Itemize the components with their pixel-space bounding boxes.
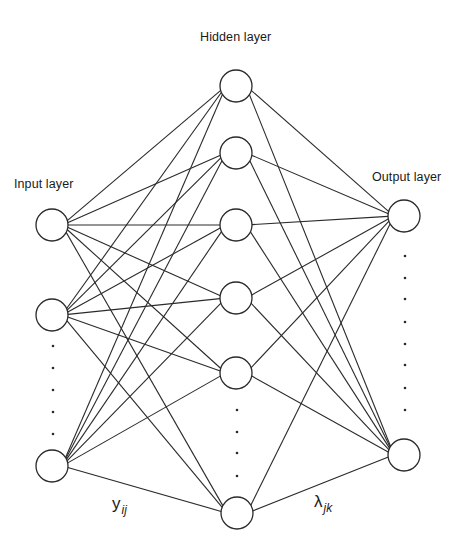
edge-i1-h6 (65, 230, 224, 507)
output-ellipsis-dot (404, 298, 407, 301)
edge-i1-h1 (67, 90, 222, 221)
output-ellipsis-dot (404, 409, 407, 412)
edge-h2-o2 (249, 159, 392, 450)
edge-i2-h4 (68, 299, 220, 315)
weight-symbol: λ (314, 492, 323, 511)
input-node-i2 (36, 299, 68, 331)
hidden-output-weight-label: λjk (314, 492, 332, 512)
output-layer-label: Output layer (372, 170, 441, 184)
edge-h1-o2 (248, 92, 391, 449)
edge-i3-h3 (65, 230, 222, 461)
weight-subscript: ij (122, 503, 127, 517)
edge-h4-o2 (250, 302, 389, 450)
input-node-i3 (36, 450, 68, 482)
input-ellipsis-dot (52, 367, 55, 370)
hidden-node-h3 (220, 209, 252, 241)
edge-i3-h5 (67, 376, 220, 463)
edge-h2-o1 (252, 155, 389, 214)
edge-i1-h4 (68, 227, 221, 295)
input-node-i1 (36, 209, 68, 241)
edge-h3-o1 (252, 216, 388, 224)
output-ellipsis-dot (404, 343, 407, 346)
neuron-nodes (36, 70, 420, 529)
edge-i3-h1 (64, 92, 223, 460)
input-ellipsis-dot (52, 411, 55, 414)
edge-h4-o1 (251, 219, 388, 295)
output-ellipsis-dot (404, 387, 407, 390)
input-ellipsis-dot (52, 345, 55, 348)
neural-network-diagram (0, 0, 461, 560)
hidden-ellipsis-dot (236, 475, 239, 478)
edge-h5-o1 (250, 220, 389, 368)
hidden-node-h5 (220, 357, 252, 389)
hidden-node-h1 (220, 70, 252, 102)
edge-i3-h2 (65, 159, 223, 461)
hidden-ellipsis-dot (236, 452, 239, 455)
weight-symbol: y (112, 494, 121, 513)
hidden-ellipsis-dot (236, 409, 239, 412)
weight-subscript: jk (324, 501, 333, 515)
edge-i3-h6 (68, 468, 221, 512)
input-ellipsis-dot (52, 389, 55, 392)
edge-i2-h2 (66, 157, 221, 311)
output-ellipsis-dot (404, 321, 407, 324)
edge-i1-h2 (68, 155, 221, 222)
input-hidden-weight-label: yij (112, 494, 127, 514)
input-layer-label: Input layer (14, 177, 73, 191)
edge-h3-o2 (249, 230, 390, 450)
edge-i3-h4 (66, 302, 221, 461)
output-ellipsis-dot (404, 255, 407, 258)
hidden-ellipsis-dot (236, 431, 239, 434)
hidden-layer-label: Hidden layer (200, 30, 271, 44)
output-node-o1 (388, 200, 420, 232)
hidden-node-h2 (220, 137, 252, 169)
edge-i2-h5 (68, 317, 221, 371)
output-ellipsis-dot (404, 277, 407, 280)
output-node-o2 (388, 439, 420, 471)
output-ellipsis-dot (404, 364, 407, 367)
hidden-node-h4 (220, 282, 252, 314)
input-ellipsis-dot (52, 433, 55, 436)
hidden-node-h6 (221, 497, 253, 529)
